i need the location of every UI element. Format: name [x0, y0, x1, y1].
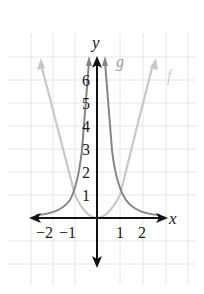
y-tick-4: 4: [82, 118, 90, 135]
y-tick-1: 1: [82, 187, 90, 204]
function-graph: y x g f 1 2 3 4 5 6 −2 −1 1 2: [0, 0, 204, 294]
x-tick-neg2: −2: [36, 224, 53, 241]
x-tick-neg1: −1: [59, 224, 76, 241]
y-tick-6: 6: [82, 72, 90, 89]
y-tick-5: 5: [82, 95, 90, 112]
x-axis-label: x: [168, 209, 177, 228]
f-label: f: [167, 67, 174, 85]
x-tick-2: 2: [138, 224, 146, 241]
y-tick-3: 3: [82, 141, 90, 158]
y-axis-label: y: [90, 33, 100, 52]
x-tick-1: 1: [116, 224, 124, 241]
y-tick-2: 2: [82, 164, 90, 181]
g-label: g: [116, 53, 124, 71]
